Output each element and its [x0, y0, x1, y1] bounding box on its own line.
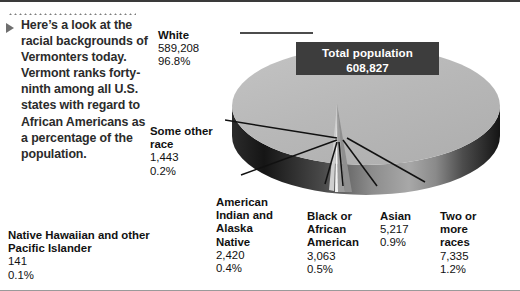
total-population-callout: Total population 608,827	[296, 42, 439, 75]
top-divider	[0, 0, 520, 2]
label-black-african-american-value: 3,063	[307, 250, 377, 263]
label-american-indian-value: 2,420	[216, 249, 288, 262]
dotted-rule-icon	[8, 12, 136, 15]
label-asian-value: 5,217	[380, 223, 438, 236]
label-american-indian-name: American Indian and Alaska Native	[216, 196, 288, 249]
label-two-or-more-races-percent: 1.2%	[440, 263, 496, 276]
label-two-or-more-races: Two or more races 7,335 1.2%	[440, 210, 496, 276]
label-black-african-american: Black or African American 3,063 0.5%	[307, 210, 377, 276]
label-native-hawaiian-percent: 0.1%	[8, 269, 158, 282]
label-two-or-more-races-name: Two or more races	[440, 210, 496, 250]
label-some-other-race-name: Some other race	[150, 125, 228, 151]
label-asian-percent: 0.9%	[380, 236, 438, 249]
label-native-hawaiian: Native Hawaiian and other Pacific Island…	[8, 229, 158, 282]
label-some-other-race-percent: 0.2%	[150, 165, 228, 178]
triangle-right-icon	[6, 23, 14, 33]
label-some-other-race: Some other race 1,443 0.2%	[150, 125, 228, 178]
label-white: White 589,208 96.8%	[158, 29, 228, 69]
label-american-indian: American Indian and Alaska Native 2,420 …	[216, 196, 288, 275]
label-native-hawaiian-value: 141	[8, 255, 158, 268]
label-white-value: 589,208	[158, 42, 228, 55]
label-two-or-more-races-value: 7,335	[440, 250, 496, 263]
callout-title: Total population	[322, 46, 413, 59]
label-black-african-american-percent: 0.5%	[307, 263, 377, 276]
infographic-page: Here’s a look at the racial backgrounds …	[0, 0, 520, 291]
label-white-name: White	[158, 29, 228, 42]
label-american-indian-percent: 0.4%	[216, 262, 288, 275]
label-asian: Asian 5,217 0.9%	[380, 210, 438, 250]
label-black-african-american-name: Black or African American	[307, 210, 377, 250]
intro-paragraph: Here’s a look at the racial backgrounds …	[21, 17, 153, 162]
callout-value: 608,827	[346, 61, 389, 74]
label-some-other-race-value: 1,443	[150, 151, 228, 164]
label-white-percent: 96.8%	[158, 55, 228, 68]
label-asian-name: Asian	[380, 210, 438, 223]
label-native-hawaiian-name: Native Hawaiian and other Pacific Island…	[8, 229, 158, 255]
